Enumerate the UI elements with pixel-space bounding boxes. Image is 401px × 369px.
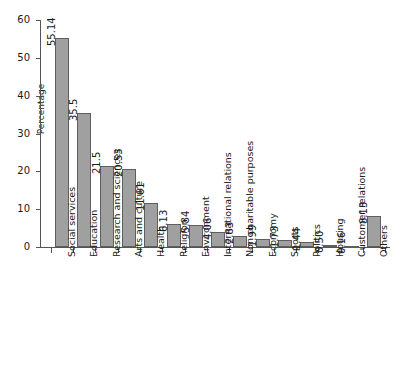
y-tick-label: 0	[4, 242, 30, 252]
x-category-label: Social services	[66, 187, 77, 257]
bar-value-label: 20.53	[113, 148, 124, 177]
bar-value-label: 1.73	[269, 226, 280, 248]
bar-value-label: 4.06	[202, 218, 213, 240]
y-tick-mark	[36, 96, 41, 97]
bar-value-label: 1.99	[247, 225, 258, 247]
x-category-label: Education	[88, 210, 99, 257]
y-tick-mark	[36, 171, 41, 172]
bar-value-label: 6.13	[158, 210, 169, 232]
y-tick-mark	[36, 209, 41, 210]
bar-value-label: 0.16	[336, 232, 347, 254]
y-tick-label: 10	[4, 204, 30, 214]
bar-chart: Percentage 0102030405060 55.14Social ser…	[0, 0, 401, 369]
y-tick-mark	[36, 134, 41, 135]
y-tick-label: 20	[4, 166, 30, 176]
bar-value-label: 35.5	[68, 99, 79, 121]
y-axis-title: Percentage	[36, 69, 46, 149]
bar-value-label: 21.5	[91, 152, 102, 174]
x-tick-mark	[51, 248, 52, 253]
bar-value-label: 55.14	[46, 17, 57, 46]
x-category-label: Others	[378, 225, 389, 257]
bar-value-label: 2.83	[224, 222, 235, 244]
y-tick-mark	[36, 20, 41, 21]
bar-value-label: 1.44	[291, 228, 302, 250]
bar-value-label: 5.84	[180, 211, 191, 233]
bar-value-label: 8.13	[358, 202, 369, 224]
bar-value-label: 0.50	[314, 231, 325, 253]
y-tick-label: 50	[4, 53, 30, 63]
y-tick-mark	[36, 58, 41, 59]
y-tick-label: 40	[4, 91, 30, 101]
y-tick-mark	[36, 247, 41, 248]
y-tick-label: 30	[4, 129, 30, 139]
y-tick-label: 60	[4, 15, 30, 25]
bar-value-label: 11.61	[135, 182, 146, 211]
